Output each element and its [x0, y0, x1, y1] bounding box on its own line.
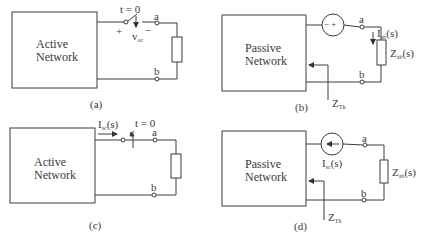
terminal-b-icon [155, 77, 159, 81]
network-label-b: Passive Network [245, 42, 287, 68]
zab-suffix: (s) [404, 166, 416, 178]
zth-sub: Th [339, 104, 346, 110]
network-line2: Network [34, 169, 76, 182]
zth-label: ZTh [328, 212, 341, 224]
isc-suffix: (s) [331, 157, 343, 169]
terminal-a-label: a [362, 133, 367, 144]
iab-suffix: (s) [386, 27, 398, 39]
terminal-b-label: b [359, 69, 365, 80]
caption-c: (c) [89, 219, 101, 231]
isc-source-label: Isc(s) [322, 158, 342, 170]
network-label-a: Active Network [36, 38, 78, 64]
network-line2: Network [36, 51, 78, 64]
zth-label: ZTh [332, 98, 345, 110]
switch-contact-icon [121, 138, 125, 142]
zth-symbol: Z [332, 97, 339, 109]
switch-contact-icon [124, 20, 128, 24]
zab-label: Zab(s) [392, 167, 416, 179]
switch-time-label: t = 0 [120, 4, 140, 15]
terminal-a-icon [153, 138, 157, 142]
isc-suffix: (s) [107, 118, 119, 130]
voc-sub: oc [138, 37, 144, 43]
terminal-a-icon [360, 25, 364, 29]
impedance-zab-icon [377, 40, 386, 65]
iab-label: Iab(s) [377, 28, 398, 40]
terminal-a-label: a [359, 14, 364, 25]
caption-a: (a) [90, 98, 102, 110]
zth-sub: Th [335, 218, 342, 224]
terminal-b-label: b [361, 188, 367, 199]
minus-sign: − [145, 25, 151, 36]
terminal-b-label: b [154, 66, 160, 77]
zab-suffix: (s) [402, 47, 414, 59]
terminal-a-label: a [154, 11, 159, 22]
terminal-b-icon [152, 193, 156, 197]
isc-label: Isc(s) [98, 119, 118, 131]
load-resistor-icon [172, 37, 182, 62]
terminal-b-label: b [151, 182, 157, 193]
network-line2: Network [245, 171, 287, 184]
voc-label: voc [132, 31, 143, 43]
impedance-zab-icon [380, 160, 388, 183]
zth-symbol: Z [328, 211, 335, 223]
terminal-b-icon [360, 80, 364, 84]
network-label-c: Active Network [34, 156, 76, 182]
network-label-d: Passive Network [245, 158, 287, 184]
plus-sign: + [116, 26, 122, 37]
terminal-a-label: a [152, 127, 157, 138]
caption-b: (b) [295, 101, 308, 113]
caption-d: (d) [294, 220, 307, 232]
zab-symbol: Z [390, 47, 397, 59]
load-resistor-icon [171, 154, 181, 178]
source-polarity: − + [324, 20, 336, 29]
zab-symbol: Z [392, 166, 399, 178]
network-line2: Network [245, 55, 287, 68]
zab-label: Zab(s) [390, 48, 414, 60]
